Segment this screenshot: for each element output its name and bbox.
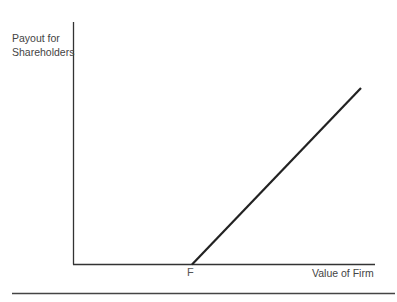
y-axis-label-line1: Payout for — [12, 31, 74, 45]
y-axis-label-line2: Shareholders — [12, 45, 74, 59]
y-axis-label: Payout for Shareholders — [12, 31, 74, 59]
x-axis-label: Value of Firm — [312, 267, 374, 279]
f-marker-label: F — [187, 266, 194, 278]
payoff-line — [192, 88, 361, 265]
